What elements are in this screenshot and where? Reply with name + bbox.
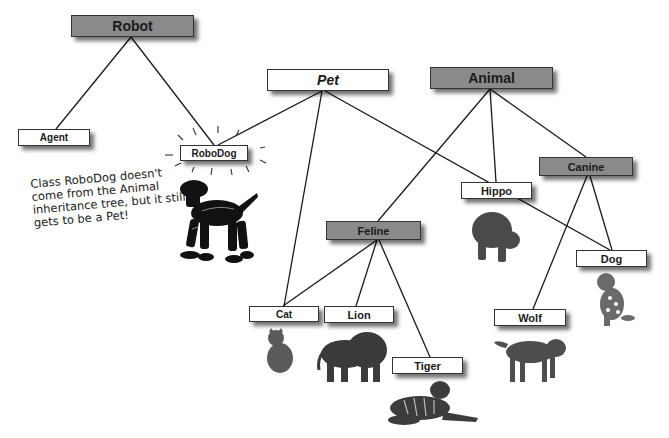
edge-animal-hippo (490, 89, 496, 182)
robot-dog-image (172, 175, 262, 267)
edge-pet-cat (284, 91, 322, 306)
class-tiger: Tiger (392, 357, 463, 374)
class-pet-label: Pet (317, 72, 339, 88)
edge-robot-robodog (131, 37, 214, 145)
tiger-image (384, 380, 480, 428)
class-tiger-label: Tiger (414, 360, 441, 372)
class-lion-label: Lion (347, 309, 370, 321)
edge-feline-lion (356, 240, 377, 306)
class-agent: Agent (18, 129, 90, 146)
class-animal: Animal (430, 67, 553, 89)
edge-animal-canine (490, 89, 586, 157)
edge-canine-wolf (533, 176, 587, 309)
class-feline-label: Feline (358, 225, 390, 237)
class-cat: Cat (249, 306, 319, 322)
class-dog-label: Dog (601, 253, 622, 265)
hippo-image (470, 208, 522, 264)
class-cat-label: Cat (276, 309, 292, 320)
cat-image (264, 328, 296, 374)
class-hippo: Hippo (461, 182, 532, 199)
class-wolf: Wolf (494, 309, 566, 326)
class-agent-label: Agent (40, 132, 68, 143)
class-robot-label: Robot (112, 18, 152, 34)
edge-robot-agent (56, 37, 131, 129)
class-robot: Robot (71, 15, 194, 37)
lion-image (315, 330, 393, 386)
edge-feline-cat (283, 240, 377, 306)
dog-image (594, 272, 636, 328)
class-robodog-label: RoboDog (192, 148, 237, 159)
class-canine: Canine (539, 157, 633, 176)
class-pet: Pet (267, 69, 389, 91)
edge-animal-feline (378, 89, 490, 221)
edge-pet-robodog (218, 91, 322, 145)
class-lion: Lion (324, 306, 394, 323)
inheritance-diagram: Robot Agent RoboDog Pet Animal Hippo Can… (0, 0, 669, 438)
class-feline: Feline (326, 221, 421, 240)
class-wolf-label: Wolf (518, 312, 542, 324)
edge-canine-dog (590, 176, 612, 250)
wolf-image (494, 336, 572, 386)
class-robodog: RoboDog (180, 145, 248, 161)
class-canine-label: Canine (568, 161, 605, 173)
class-hippo-label: Hippo (481, 185, 512, 197)
class-animal-label: Animal (468, 70, 515, 86)
class-dog: Dog (576, 250, 647, 267)
